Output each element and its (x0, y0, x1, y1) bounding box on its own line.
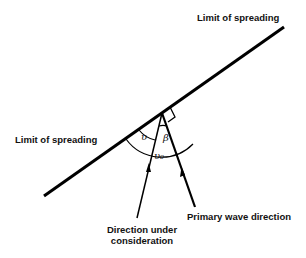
limit-of-spreading-line (44, 27, 284, 196)
upsilon-symbol: υ (141, 131, 147, 142)
direction-label-line2: consideration (100, 235, 184, 246)
limit-of-spreading-left-label: Limit of spreading (15, 134, 97, 145)
direction-under-consideration-label: Direction under consideration (100, 224, 184, 246)
primary-wave-direction-line (162, 113, 195, 207)
beta-symbol: β (163, 132, 169, 143)
wave-spreading-diagram: Limit of spreading Limit of spreading Di… (0, 0, 306, 258)
primary-wave-direction-label: Primary wave direction (187, 211, 291, 222)
direction-label-line1: Direction under (100, 224, 184, 235)
upsilon-zero-symbol: υ₀ (154, 150, 164, 161)
limit-of-spreading-top-label: Limit of spreading (197, 12, 279, 23)
beta-arc (159, 125, 167, 126)
